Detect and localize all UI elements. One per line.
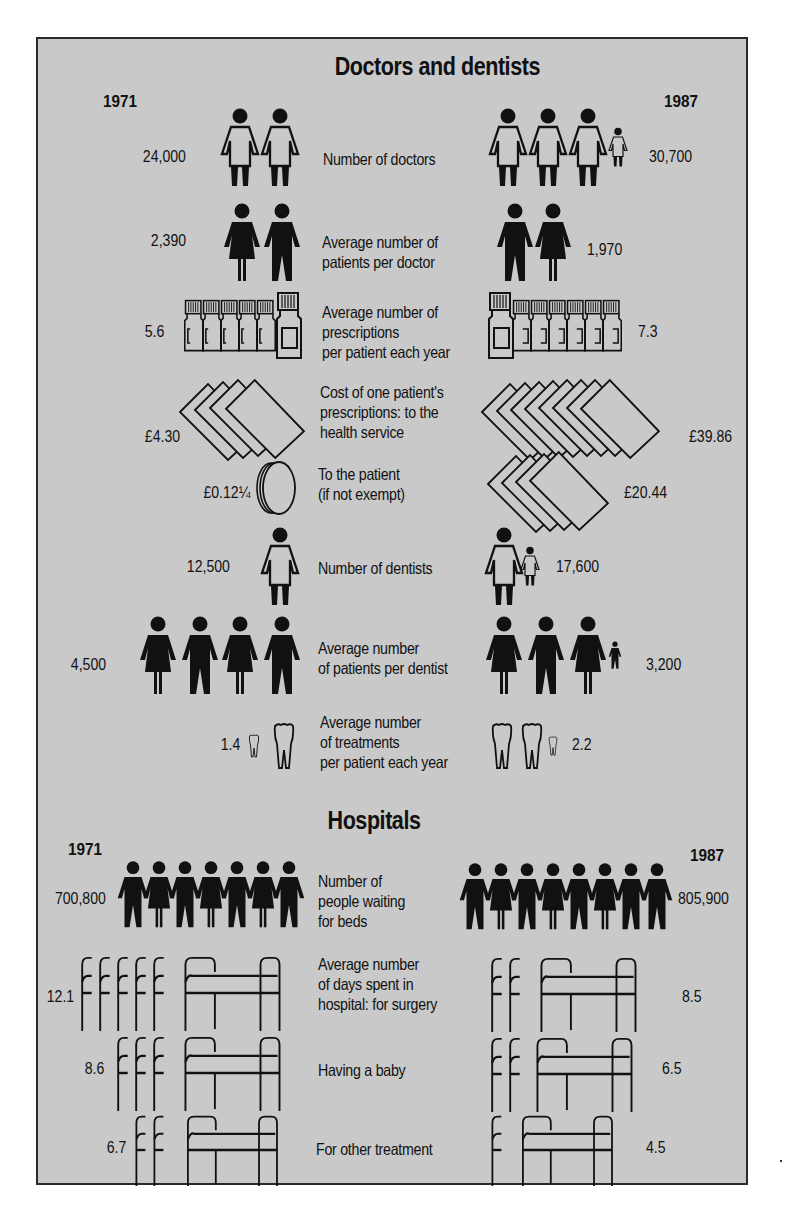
- value-1987: 805,900: [678, 890, 729, 908]
- row-label: Having a baby: [318, 1060, 405, 1080]
- value-1987: 6.5: [662, 1060, 682, 1078]
- person-icon: [116, 856, 306, 936]
- section-title-hospitals: Hospitals: [328, 806, 421, 835]
- value-1971: 1.4: [220, 736, 240, 754]
- value-1971: 700,800: [55, 890, 106, 908]
- scan-speck: [780, 1160, 782, 1162]
- patient-icon: [200, 203, 310, 283]
- patient-icon: [495, 203, 585, 283]
- year-label-1971: 1971: [68, 840, 102, 860]
- year-label-1987: 1987: [690, 846, 724, 866]
- year-label-1971: 1971: [103, 92, 137, 112]
- dentist-icon: [484, 527, 554, 607]
- value-1971: 4,500: [71, 656, 106, 674]
- value-1987: 17,600: [556, 558, 599, 576]
- value-1971: 6.7: [106, 1139, 126, 1157]
- value-1971: 2,390: [151, 232, 186, 250]
- row-label: Average number of days spent in hospital…: [318, 954, 437, 1014]
- value-1971: £0.12¼: [203, 484, 250, 502]
- hospital-bed-icon: [116, 1035, 306, 1115]
- patient-icon: [484, 616, 634, 696]
- patient-icon: [116, 616, 306, 696]
- value-1987: £39.86: [689, 428, 732, 446]
- hospital-bed-icon: [80, 955, 300, 1035]
- banknote-icon: [178, 378, 308, 466]
- coin-icon: [254, 460, 298, 516]
- row-label: Number of people waiting for beds: [318, 871, 405, 931]
- row-label: Average number of patients per doctor: [322, 232, 438, 272]
- value-1987: 3,200: [646, 656, 681, 674]
- value-1987: 2.2: [572, 736, 592, 754]
- row-label: For other treatment: [316, 1139, 433, 1159]
- value-1971: 5.6: [144, 323, 164, 341]
- row-label: Average number of prescriptions per pati…: [322, 302, 450, 362]
- doctor-icon: [488, 108, 638, 188]
- dentist-icon: [240, 527, 310, 607]
- row-label: Number of doctors: [323, 149, 435, 169]
- value-1987: £20.44: [624, 484, 667, 502]
- row-label: To the patient (if not exempt): [318, 464, 405, 504]
- medicine-bottle-icon: [488, 292, 628, 362]
- medicine-bottle-icon: [184, 292, 314, 362]
- hospital-bed-icon: [490, 956, 680, 1036]
- row-label: Average number of treatments per patient…: [320, 712, 448, 772]
- value-1971: 24,000: [143, 148, 186, 166]
- hospital-bed-icon: [490, 1036, 660, 1116]
- section-title-doctors: Doctors and dentists: [335, 52, 540, 81]
- tooth-icon: [248, 722, 304, 774]
- value-1971: 12.1: [47, 988, 74, 1006]
- value-1987: 4.5: [646, 1139, 666, 1157]
- value-1971: 12,500: [187, 558, 230, 576]
- row-label: Average number of patients per dentist: [318, 638, 448, 678]
- person-icon: [458, 858, 674, 938]
- row-label: Cost of one patient's prescriptions: to …: [320, 382, 444, 442]
- value-1987: 30,700: [649, 148, 692, 166]
- value-1971: 8.6: [84, 1060, 104, 1078]
- year-label-1987: 1987: [664, 92, 698, 112]
- banknote-icon: [486, 450, 616, 538]
- value-1971: £4.30: [145, 428, 180, 446]
- value-1987: 1,970: [587, 241, 622, 259]
- hospital-bed-icon: [490, 1114, 640, 1194]
- value-1987: 8.5: [682, 988, 702, 1006]
- tooth-icon: [490, 722, 570, 774]
- doctor-icon: [196, 108, 306, 188]
- value-1987: 7.3: [638, 323, 658, 341]
- row-label: Number of dentists: [318, 558, 432, 578]
- hospital-bed-icon: [134, 1114, 304, 1194]
